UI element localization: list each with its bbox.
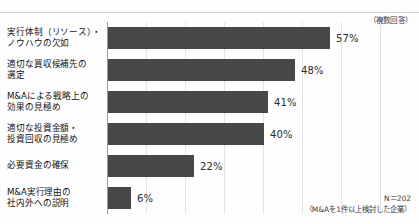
bar-value-label: 40% [270,118,293,150]
category-label-line: 社内外への説明 [7,198,103,210]
category-label-line: M&A実行理由の [7,187,103,199]
category-label: 適切な投資金額・投資回収の見極め [7,118,103,150]
category-label-line: 適切な買収候補先の [7,59,103,71]
bar-value-label: 22% [200,150,223,182]
category-label-line: 投資回収の見極め [7,134,103,146]
bar-row: 適切な投資金額・投資回収の見極め40% [0,118,419,150]
bar-value-label: 57% [336,22,359,54]
bar [108,155,194,177]
bar-value-label: 41% [274,86,297,118]
category-label-line: ノウハウの欠如 [7,38,103,50]
category-label-line: 必要資金の確保 [7,160,103,172]
category-label-line: 実行体制（リソース）・ [7,27,103,39]
category-label: 適切な買収候補先の選定 [7,54,103,86]
bar-row: 必要資金の確保22% [0,150,419,182]
bar-value-label: 48% [301,54,324,86]
category-label-line: 適切な投資金額・ [7,123,103,135]
bar-row: 適切な買収候補先の選定48% [0,54,419,86]
bar-row: M&Aによる戦略上の効果の見極め41% [0,86,419,118]
sample-size-text: N＝202 [305,194,411,205]
bar [108,59,295,81]
top-divider [0,12,419,13]
sample-size-footnote: N＝202 （M&Aを1件以上検討した企業） [305,194,411,215]
bar [108,91,268,113]
category-label: 実行体制（リソース）・ノウハウの欠如 [7,22,103,54]
category-label: M&A実行理由の社内外への説明 [7,182,103,214]
category-label-line: 効果の見極め [7,102,103,114]
sample-description-text: （M&Aを1件以上検討した企業） [305,205,411,216]
bar [108,27,330,49]
bar-value-label: 6% [137,182,153,214]
bar [108,187,131,209]
category-label-line: 選定 [7,70,103,82]
bar-chart-figure: （複数回答） 実行体制（リソース）・ノウハウの欠如57%適切な買収候補先の選定4… [0,0,419,224]
category-label: 必要資金の確保 [7,150,103,182]
bar [108,123,264,145]
bar-row: 実行体制（リソース）・ノウハウの欠如57% [0,22,419,54]
category-label: M&Aによる戦略上の効果の見極め [7,86,103,118]
category-label-line: M&Aによる戦略上の [7,91,103,103]
